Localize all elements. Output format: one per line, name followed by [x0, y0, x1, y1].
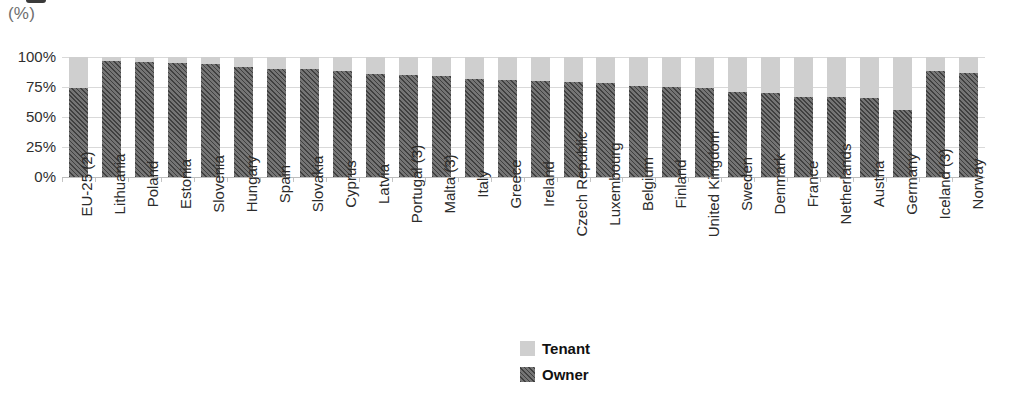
- x-axis-category-label: Iceland (3): [936, 149, 953, 220]
- x-label-slot: Ireland: [524, 182, 557, 312]
- x-label-slot: Lithuania: [95, 182, 128, 312]
- bar-segment-tenant[interactable]: [465, 57, 484, 79]
- x-label-slot: Portugal (3): [392, 182, 425, 312]
- bar-slot: [853, 57, 886, 177]
- x-label-slot: Cyprus: [326, 182, 359, 312]
- x-axis-category-label: Hungary: [243, 156, 260, 213]
- x-label-slot: Slovenia: [194, 182, 227, 312]
- bar-segment-tenant[interactable]: [662, 57, 681, 87]
- x-axis-category-label: Latvia: [375, 164, 392, 204]
- x-axis-category-label: Lithuania: [111, 154, 128, 215]
- bar-segment-tenant[interactable]: [300, 57, 319, 69]
- bar-segment-tenant[interactable]: [926, 57, 945, 71]
- bar-segment-tenant[interactable]: [69, 57, 88, 88]
- y-axis-tick-label: 50%: [4, 108, 56, 125]
- bar-segment-tenant[interactable]: [596, 57, 615, 83]
- x-axis-category-labels: EU-25 (2)LithuaniaPolandEstoniaSloveniaH…: [62, 182, 985, 312]
- x-label-slot: EU-25 (2): [62, 182, 95, 312]
- x-label-slot: Netherlands: [820, 182, 853, 312]
- stacked-bar[interactable]: [531, 57, 550, 177]
- x-label-slot: Estonia: [161, 182, 194, 312]
- x-axis-category-label: Norway: [969, 159, 986, 210]
- x-label-slot: Italy: [458, 182, 491, 312]
- legend-swatch-owner: [520, 367, 535, 382]
- x-label-slot: Latvia: [359, 182, 392, 312]
- y-axis-tick-labels: 100%75%50%25%0%: [0, 57, 56, 177]
- y-axis-unit-label: (%): [8, 4, 35, 24]
- bar-segment-tenant[interactable]: [201, 57, 220, 64]
- x-label-slot: Finland: [655, 182, 688, 312]
- x-label-slot: Slovakia: [293, 182, 326, 312]
- x-label-slot: Poland: [128, 182, 161, 312]
- stacked-bar[interactable]: [860, 57, 879, 177]
- x-label-slot: Hungary: [227, 182, 260, 312]
- bar-slot: [458, 57, 491, 177]
- x-label-slot: Spain: [260, 182, 293, 312]
- bar-segment-tenant[interactable]: [695, 57, 714, 88]
- bar-segment-tenant[interactable]: [531, 57, 550, 81]
- legend-label: Owner: [542, 366, 589, 383]
- x-axis-category-label: Portugal (3): [408, 145, 425, 223]
- legend-item[interactable]: Tenant: [520, 340, 590, 357]
- x-axis-category-label: United Kingdom: [705, 131, 722, 238]
- bar-segment-tenant[interactable]: [629, 57, 648, 86]
- x-label-slot: Greece: [491, 182, 524, 312]
- x-axis-category-label: Czech Republic: [573, 131, 590, 236]
- x-axis-category-label: France: [804, 161, 821, 208]
- x-axis-category-label: Belgium: [639, 157, 656, 211]
- x-axis-category-label: Spain: [276, 165, 293, 203]
- bar-slot: [359, 57, 392, 177]
- y-axis-tick-label: 100%: [4, 48, 56, 65]
- y-axis-tick-label: 0%: [4, 168, 56, 185]
- chart-legend: TenantOwner: [520, 340, 590, 392]
- bar-segment-tenant[interactable]: [827, 57, 846, 97]
- x-label-slot: Austria: [853, 182, 886, 312]
- stacked-bar[interactable]: [465, 57, 484, 177]
- bar-segment-tenant[interactable]: [564, 57, 583, 82]
- x-label-slot: Iceland (3): [919, 182, 952, 312]
- bar-segment-owner[interactable]: [267, 69, 286, 177]
- legend-label: Tenant: [542, 340, 590, 357]
- stacked-bar[interactable]: [135, 57, 154, 177]
- bar-segment-tenant[interactable]: [860, 57, 879, 98]
- bar-segment-owner[interactable]: [366, 74, 385, 177]
- x-axis-category-label: Sweden: [738, 157, 755, 211]
- bar-segment-tenant[interactable]: [959, 57, 978, 73]
- bar-segment-tenant[interactable]: [761, 57, 780, 93]
- x-axis-category-label: Finland: [672, 159, 689, 208]
- bar-segment-tenant[interactable]: [498, 57, 517, 80]
- bar-segment-tenant[interactable]: [234, 57, 253, 67]
- bar-segment-tenant[interactable]: [728, 57, 747, 92]
- bar-segment-tenant[interactable]: [432, 57, 451, 76]
- x-label-slot: Belgium: [622, 182, 655, 312]
- x-label-slot: United Kingdom: [688, 182, 721, 312]
- bar-slot: [128, 57, 161, 177]
- x-axis-category-label: Greece: [507, 159, 524, 208]
- y-axis-tick-label: 75%: [4, 78, 56, 95]
- legend-swatch-tenant: [520, 341, 535, 356]
- x-label-slot: Norway: [952, 182, 985, 312]
- x-axis-category-label: EU-25 (2): [78, 151, 95, 216]
- x-axis-category-label: Malta (3): [441, 154, 458, 213]
- x-axis-category-label: Ireland: [540, 161, 557, 207]
- bar-slot: [524, 57, 557, 177]
- x-label-slot: Luxembourg: [590, 182, 623, 312]
- x-axis-category-label: Germany: [903, 153, 920, 215]
- x-label-slot: Germany: [886, 182, 919, 312]
- bar-segment-owner[interactable]: [465, 79, 484, 177]
- stacked-bar[interactable]: [333, 57, 352, 177]
- legend-item[interactable]: Owner: [520, 366, 590, 383]
- stacked-bar[interactable]: [794, 57, 813, 177]
- bar-segment-tenant[interactable]: [893, 57, 912, 110]
- stacked-bar[interactable]: [366, 57, 385, 177]
- bar-segment-tenant[interactable]: [267, 57, 286, 69]
- stacked-bar[interactable]: [267, 57, 286, 177]
- bar-segment-tenant[interactable]: [399, 57, 418, 75]
- x-axis-category-label: Luxembourg: [606, 142, 623, 225]
- x-axis-category-label: Denmark: [771, 154, 788, 215]
- bar-segment-tenant[interactable]: [333, 57, 352, 71]
- bar-slot: [787, 57, 820, 177]
- bar-segment-tenant[interactable]: [366, 57, 385, 74]
- bar-segment-tenant[interactable]: [794, 57, 813, 97]
- x-axis-category-label: Netherlands: [837, 144, 854, 225]
